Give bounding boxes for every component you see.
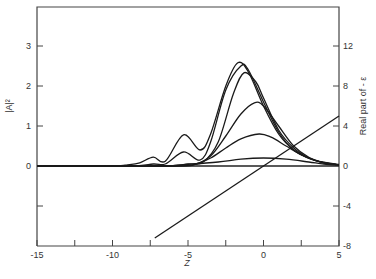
intensity-curve-4 [37,102,339,166]
y-right-tick-label: 4 [343,121,348,131]
y-left-tick-label: 0 [26,161,31,171]
x-tick-label: 0 [261,250,266,260]
y-left-tick-label: 2 [26,81,31,91]
y-right-tick-label: -4 [343,201,351,211]
y-right-tick-label: 0 [343,161,348,171]
epsilon-line [155,116,339,238]
y-axis-left: 0123 [26,41,43,206]
y-right-tick-label: 8 [343,81,348,91]
intensity-curve-5 [37,134,339,166]
x-tick-label: -15 [30,250,43,260]
intensity-curve-6 [37,158,339,166]
y-right-tick-label: -8 [343,241,351,251]
data-series [37,62,339,238]
x-axis: -15-10-505 [30,240,341,260]
y-right-tick-label: 12 [343,41,353,51]
y-left-tick-label: 1 [26,121,31,131]
intensity-curve-3 [37,72,339,166]
x-axis-title: Z [183,258,190,268]
x-tick-label: -10 [106,250,119,260]
y-axis-left-title: |A|² [4,99,14,113]
y-axis-right-title: Real part of - ε [358,77,368,136]
chart: -15-10-505 0123 -8-404812 Z |A|² Real pa… [0,0,376,279]
frame-border [37,7,339,246]
y-axis-right: -8-404812 [333,41,353,251]
plot-frame [37,7,339,246]
x-tick-label: 5 [336,250,341,260]
y-left-tick-label: 3 [26,41,31,51]
